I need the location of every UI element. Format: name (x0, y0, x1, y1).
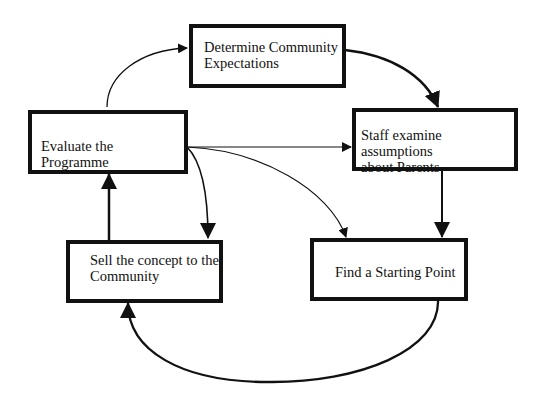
node-determine-community-expectations: Determine Community Expectations (189, 24, 346, 88)
edge-find-to-sell (128, 300, 438, 382)
node-evaluate-the-programme: Evaluate the Programme (28, 110, 188, 174)
node-find-a-starting-point: Find a Starting Point (310, 238, 468, 301)
node-label: Find a Starting Point (335, 264, 455, 280)
diagram-canvas: Determine Community Expectations Staff e… (0, 0, 545, 406)
node-sell-the-concept: Sell the concept to the Community (66, 240, 223, 303)
node-label: Staff examine assumptions about Parents (361, 127, 514, 175)
node-label: Evaluate the Programme (41, 138, 184, 170)
edge-evaluate-to-determine (107, 48, 187, 107)
node-label: Sell the concept to the Community (90, 252, 219, 284)
edge-evaluate-to-sell (187, 147, 208, 238)
node-staff-examine-assumptions: Staff examine assumptions about Parents (352, 108, 518, 171)
edge-evaluate-to-find (187, 147, 346, 237)
edge-determine-to-staff (345, 50, 438, 107)
node-label: Determine Community Expectations (204, 39, 338, 71)
